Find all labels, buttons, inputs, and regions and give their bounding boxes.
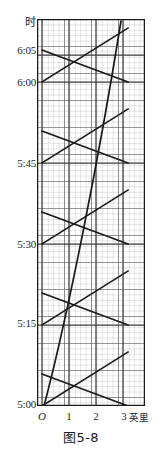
plot-area bbox=[37, 19, 145, 406]
x-tick-label-1: 1 bbox=[66, 410, 72, 423]
x-tick-label-origin: O bbox=[38, 410, 46, 423]
y-tick-label-545: 5:45 bbox=[2, 158, 36, 169]
x-axis-labels: O 1 2 3 英里 bbox=[0, 410, 162, 430]
y-tick-label-605: 6:05 bbox=[2, 45, 36, 56]
y-tick-label-500: 5:00 bbox=[2, 399, 36, 410]
figure-5-8: 时 6:05 6:00 5:45 5:30 5:15 5:00 bbox=[0, 0, 162, 460]
figure-caption: 图5-8 bbox=[0, 430, 162, 446]
x-tick-label-2: 2 bbox=[93, 410, 99, 423]
x-axis-unit-label: 英里 bbox=[129, 411, 149, 424]
y-tick-label-515: 5:15 bbox=[2, 318, 36, 329]
y-tick-label-600: 6:00 bbox=[2, 77, 36, 88]
x-tick-label-3: 3 bbox=[121, 410, 127, 423]
y-tick-label-530: 5:30 bbox=[2, 239, 36, 250]
y-axis-labels: 时 6:05 6:00 5:45 5:30 5:15 5:00 bbox=[0, 0, 36, 460]
y-axis-unit-label: 时 bbox=[2, 17, 36, 28]
plot-svg bbox=[37, 19, 145, 406]
